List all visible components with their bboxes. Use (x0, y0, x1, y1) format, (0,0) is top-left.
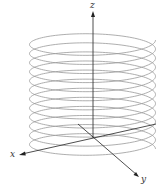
x-axis-label: x (10, 150, 15, 159)
z-arrowhead-icon (91, 11, 95, 17)
x-arrowhead-icon (19, 152, 26, 156)
z-axis-label: z (90, 1, 95, 10)
helix-diagram: z x y (0, 0, 162, 192)
axes (19, 11, 156, 177)
y-axis (78, 124, 137, 175)
y-axis-label: y (141, 175, 146, 184)
